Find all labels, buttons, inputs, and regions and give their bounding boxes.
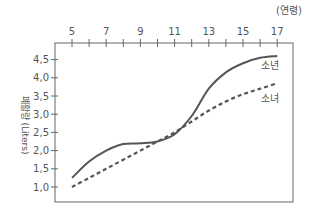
y-tick-label: 3,0 [33, 109, 49, 120]
legend-girls: 소녀 [261, 93, 279, 104]
plot-frame [55, 43, 293, 202]
x-tick-label: 17 [271, 26, 284, 37]
y-axis-label: 폐활량 (Liters) [20, 96, 31, 155]
x-tick-label: 15 [237, 26, 250, 37]
y-tick-label: 3,5 [33, 91, 49, 102]
y-tick-label: 1,0 [33, 182, 49, 193]
y-tick-label: 2,0 [33, 145, 49, 156]
y-tick-label: 1,5 [33, 163, 49, 174]
y-tick-label: 4,0 [33, 72, 49, 83]
x-axis-label: (연령) [276, 5, 302, 16]
y-tick-label: 2,5 [33, 127, 49, 138]
boys-line [72, 56, 277, 178]
x-tick-label: 11 [168, 26, 181, 37]
line-chart: 57911131517 1,01,52,02,53,03,54,04,5 (연령… [0, 0, 310, 221]
y-tick-label: 4,5 [33, 54, 49, 65]
legend-boys: 소년 [261, 60, 279, 71]
x-tick-label: 7 [103, 26, 109, 37]
x-tick-label: 13 [202, 26, 215, 37]
x-tick-label: 5 [69, 26, 75, 37]
x-tick-label: 9 [137, 26, 143, 37]
